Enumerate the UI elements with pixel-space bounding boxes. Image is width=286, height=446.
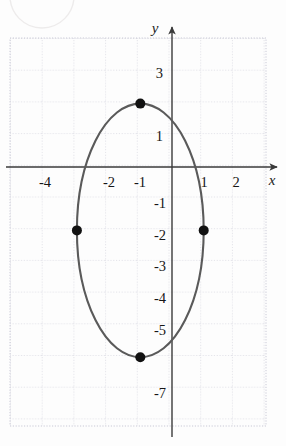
point-left-covertex bbox=[72, 225, 82, 235]
y-tick--4: -4 bbox=[154, 290, 167, 306]
x-tick-1: 1 bbox=[200, 174, 207, 190]
y-tick--7: -7 bbox=[154, 385, 166, 401]
grid-layer bbox=[10, 38, 266, 426]
y-axis-label: y bbox=[150, 20, 159, 36]
y-tick-1: 1 bbox=[156, 128, 163, 144]
y-tick-3: 3 bbox=[156, 65, 163, 81]
y-tick--2: -2 bbox=[154, 227, 166, 243]
x-axis-label: x bbox=[268, 172, 276, 188]
x-tick--2: -2 bbox=[103, 174, 115, 190]
scan-artifact bbox=[10, 0, 74, 28]
y-tick--1: -1 bbox=[154, 195, 166, 211]
point-right-covertex bbox=[199, 225, 209, 235]
y-tick--3: -3 bbox=[154, 258, 166, 274]
x-tick-2: 2 bbox=[232, 174, 239, 190]
point-bottom-vertex bbox=[135, 352, 145, 362]
coordinate-plane-svg: y x -4 -2 -1 1 2 3 1 -1 -2 -3 -4 -5 -7 bbox=[0, 0, 286, 446]
x-tick--1: -1 bbox=[134, 174, 146, 190]
point-top-vertex bbox=[135, 99, 145, 109]
graph-canvas: y x -4 -2 -1 1 2 3 1 -1 -2 -3 -4 -5 -7 bbox=[0, 0, 286, 446]
y-tick--5: -5 bbox=[154, 322, 166, 338]
x-tick--4: -4 bbox=[39, 174, 52, 190]
